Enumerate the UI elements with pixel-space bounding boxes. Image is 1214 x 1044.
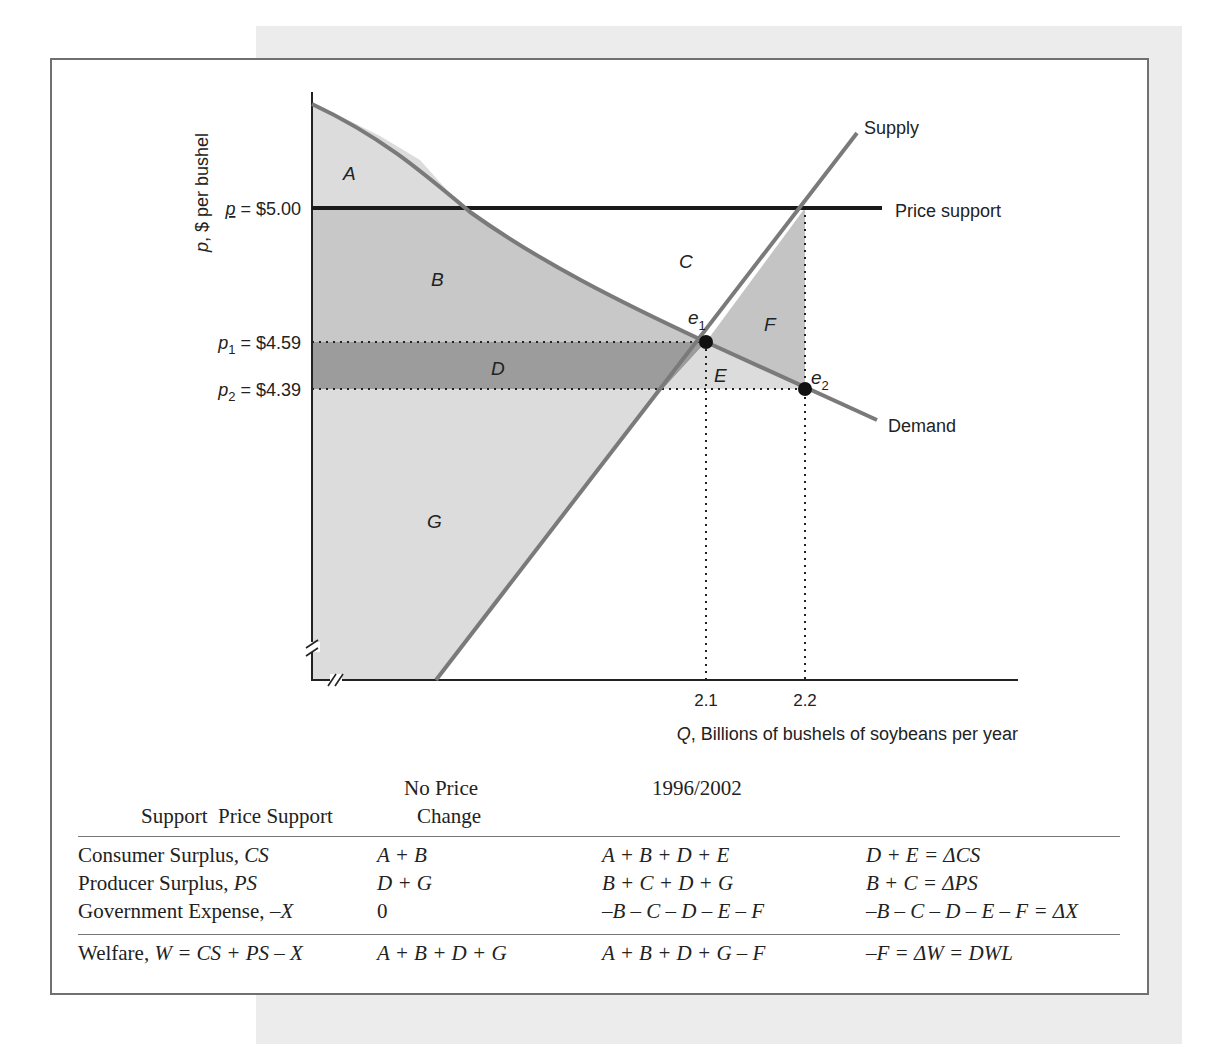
x-axis-title: Q, Billions of bushels of soybeans per y… [677,724,1018,744]
region-a [312,104,463,208]
table-header-rule [78,836,1120,837]
table-row-cs-label: Consumer Surplus, CS [78,843,269,868]
table-row-gov-no-support: 0 [377,899,388,924]
table-row-gov-label: Government Expense, –X [78,899,293,924]
region-d [312,342,706,389]
region-a-label: A [342,163,356,184]
table-header-col3: 1996/2002 [652,776,742,801]
tick-2-1: 2.1 [694,691,718,710]
table-row-cs-support: A + B + D + E [602,843,729,868]
region-b-label: B [431,269,444,290]
table-row-welfare-no-support: A + B + D + G [377,941,507,966]
e1-point [699,335,713,349]
x-axis-break-icon [328,674,343,686]
demand-label: Demand [888,416,956,436]
table-header-no-price-line1: No Price [404,776,478,801]
region-g-label: G [427,511,442,532]
table-row-welfare-label: Welfare, W = CS + PS – X [78,941,303,966]
table-row-cs-no-support: A + B [377,843,427,868]
price-support-tick-label: p = $5.00 [224,199,301,219]
table-row-ps-change: B + C = ΔPS [866,871,978,896]
table-welfare-rule [78,934,1120,935]
y-axis-title: p, $ per bushel [192,133,212,253]
supply-label: Supply [864,118,919,138]
price-support-label: Price support [895,201,1001,221]
region-g [312,389,663,680]
table-row-gov-support: –B – C – D – E – F [602,899,764,924]
region-e-label: E [714,365,727,386]
region-c-label: C [679,251,693,272]
region-b [312,208,706,342]
table-row-cs-change: D + E = ΔCS [866,843,980,868]
region-f-label: F [764,314,777,335]
table-row-welfare-support: A + B + D + G – F [602,941,765,966]
table-header-no-price-line2: Change [417,804,481,829]
e2-point [798,382,812,396]
table-row-ps-no-support: D + G [377,871,432,896]
region-d-label: D [491,358,505,379]
table-row-welfare-change: –F = ΔW = DWL [866,941,1013,966]
e1-label: e1 [688,307,706,333]
p1-tick-label: p1 = $4.59 [217,333,301,357]
table-row-ps-label: Producer Surplus, PS [78,871,257,896]
table-row-ps-support: B + C + D + G [602,871,733,896]
table-row-gov-change: –B – C – D – E – F = ΔX [866,899,1078,924]
tick-2-2: 2.2 [793,691,817,710]
p2-tick-label: p2 = $4.39 [217,380,301,404]
table-header-col1: Support Price Support [141,804,333,829]
